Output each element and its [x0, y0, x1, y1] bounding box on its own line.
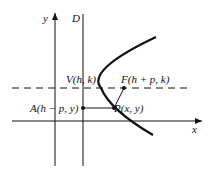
focus-label: F(h + p, k): [120, 73, 170, 86]
y-axis-label: y: [42, 12, 48, 24]
x-axis-label: x: [191, 123, 197, 135]
point-A: [81, 106, 85, 110]
vertex-label: V(h, k): [66, 73, 96, 86]
parabola-diagram: y x D V(h, k) F(h + p, k) P(x, y) A(h − …: [0, 0, 212, 178]
parabola-curve: [98, 37, 156, 135]
point-F: [122, 86, 126, 90]
directrix-label: D: [71, 12, 80, 24]
point-A-label: A(h − p, y): [29, 102, 79, 115]
point-P-label: P(x, y): [113, 102, 144, 115]
